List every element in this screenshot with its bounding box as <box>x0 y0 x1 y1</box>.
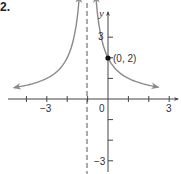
right-curve-branch <box>96 0 158 87</box>
point-marker <box>105 55 110 60</box>
graph-plot: y −3 0 3 3 −3 (0, 2) <box>0 0 181 174</box>
left-curve-branch <box>14 0 79 88</box>
y-axis-label: y <box>98 7 104 19</box>
x-tick-label-neg3: −3 <box>40 103 52 114</box>
y-tick-label-3: 3 <box>98 31 104 42</box>
point-label: (0, 2) <box>113 53 136 64</box>
y-tick-label-neg3: −3 <box>94 156 106 167</box>
x-tick-label-3: 3 <box>166 103 172 114</box>
x-tick-label-0: 0 <box>99 103 105 114</box>
